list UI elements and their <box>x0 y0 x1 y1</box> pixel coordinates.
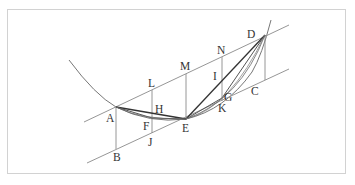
label-K: K <box>218 102 227 114</box>
label-I: I <box>213 70 217 82</box>
upper-tangent-line <box>84 25 289 122</box>
label-H: H <box>155 103 163 115</box>
label-M: M <box>180 60 190 72</box>
label-N: N <box>217 44 226 56</box>
label-L: L <box>148 77 155 89</box>
label-J: J <box>148 136 153 148</box>
label-C: C <box>251 85 259 97</box>
label-A: A <box>106 112 115 124</box>
label-F: F <box>143 120 149 132</box>
label-E: E <box>182 122 189 134</box>
label-B: B <box>113 151 121 163</box>
parabola-diagram: A B C D E F G H I J K L M N <box>0 0 355 185</box>
label-D: D <box>247 28 255 40</box>
